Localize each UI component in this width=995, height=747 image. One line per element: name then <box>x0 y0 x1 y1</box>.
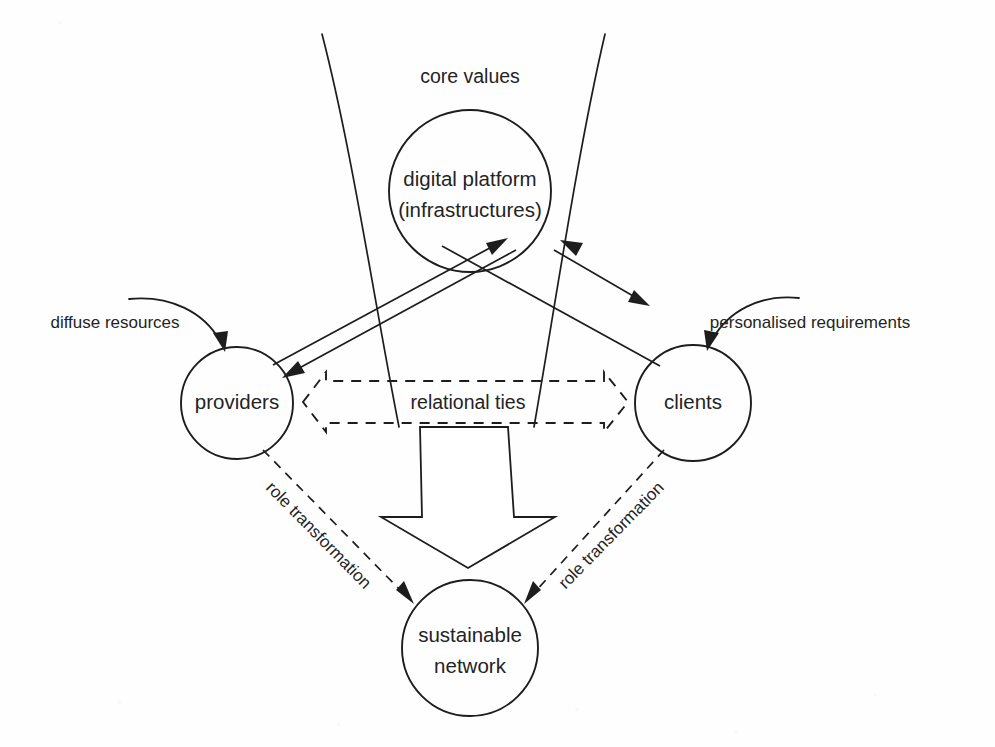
node-digital-platform-label-line1: digital platform <box>403 167 536 190</box>
node-sustainable-network-label-line2: network <box>434 654 507 677</box>
clients-role-transformation-arrow <box>524 450 664 604</box>
funnel-line-left <box>322 34 399 427</box>
label-role-transformation-left: role transformation <box>262 478 375 592</box>
core-values-funnel-lines <box>322 34 605 427</box>
platform-to-clients-arrowhead <box>628 290 650 306</box>
funnel-line-right <box>534 34 605 427</box>
platform-to-providers-arrowhead <box>282 361 305 378</box>
node-sustainable-network-label-line1: sustainable <box>418 623 522 646</box>
label-role-transformation-right: role transformation <box>555 478 668 592</box>
diagram-canvas: core values digital platform (infrastruc… <box>0 0 995 747</box>
providers-role-transformation-arrowhead <box>396 581 414 604</box>
clients-platform-arrow-pair <box>442 240 660 366</box>
providers-to-platform-arrowhead <box>486 238 508 255</box>
hollow-down-arrow-shape <box>381 427 555 568</box>
node-clients-label: clients <box>664 390 722 413</box>
node-sustainable-network-circle[interactable] <box>402 580 538 716</box>
diagram-svg: core values digital platform (infrastruc… <box>0 0 995 747</box>
node-digital-platform-circle[interactable] <box>389 110 551 272</box>
label-relational-ties: relational ties <box>411 391 526 413</box>
label-diffuse-resources: diffuse resources <box>50 313 179 332</box>
providers-role-transformation-arrow <box>263 450 414 604</box>
platform-to-clients-shaft <box>554 250 640 300</box>
clients-role-transformation-arrowhead <box>524 581 541 604</box>
providers-to-platform-shaft <box>273 243 499 365</box>
node-providers-label: providers <box>195 390 279 413</box>
providers-role-transformation-line <box>263 450 403 593</box>
providers-platform-arrow-pair <box>273 238 516 378</box>
label-core-values: core values <box>420 65 520 87</box>
label-personalised-requirements: personalised requirements <box>710 313 910 332</box>
core-values-block-arrow <box>381 427 555 568</box>
node-digital-platform-label-line2: (infrastructures) <box>398 198 542 221</box>
clients-to-platform-shaft <box>442 246 660 366</box>
clients-role-transformation-line <box>534 450 664 593</box>
